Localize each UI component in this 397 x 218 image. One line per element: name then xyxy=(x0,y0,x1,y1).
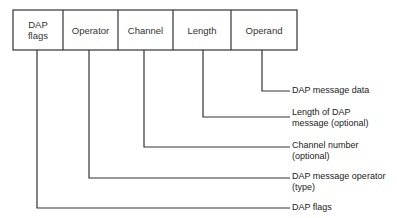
field-operand: Operand xyxy=(231,10,297,50)
field-dap-flags: DAP flags xyxy=(13,10,63,50)
desc-channel: Channel number (optional) xyxy=(292,140,359,162)
field-length: Length xyxy=(173,10,231,50)
field-channel: Channel xyxy=(118,10,173,50)
field-operator: Operator xyxy=(63,10,118,50)
desc-message-data: DAP message data xyxy=(292,85,369,96)
desc-operator: DAP message operator (type) xyxy=(292,171,385,193)
desc-flags: DAP flags xyxy=(292,202,332,213)
desc-length: Length of DAP message (optional) xyxy=(292,107,369,129)
